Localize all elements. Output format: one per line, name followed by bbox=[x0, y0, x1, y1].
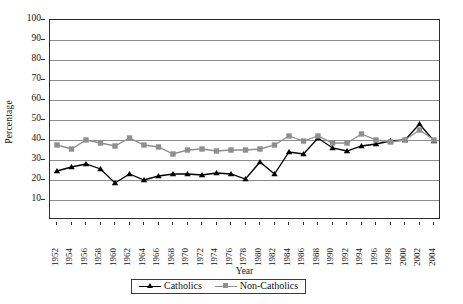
data-point-square bbox=[112, 143, 117, 148]
y-tick-label: 30 bbox=[32, 154, 42, 164]
y-tick-mark bbox=[41, 139, 45, 140]
y-tick-mark bbox=[41, 79, 45, 80]
data-point-square bbox=[359, 131, 364, 136]
x-tick-mark bbox=[230, 222, 231, 225]
x-tick-mark bbox=[346, 222, 347, 225]
y-tick-mark bbox=[41, 59, 45, 60]
x-tick-label: 1952 bbox=[51, 248, 60, 266]
x-tick-mark bbox=[259, 222, 260, 225]
x-tick-label: 1964 bbox=[138, 248, 147, 266]
y-tick-mark bbox=[41, 19, 45, 20]
data-point-square bbox=[417, 127, 422, 132]
data-point-square bbox=[156, 144, 161, 149]
y-tick-label: 90 bbox=[32, 34, 42, 44]
x-tick-mark bbox=[288, 222, 289, 225]
data-point-square bbox=[388, 139, 393, 144]
x-tick-mark bbox=[187, 222, 188, 225]
data-point-square bbox=[141, 142, 146, 147]
y-tick-label: 40 bbox=[32, 134, 42, 144]
y-tick-label: 80 bbox=[32, 54, 42, 64]
data-point-triangle bbox=[286, 149, 292, 154]
x-tick-mark bbox=[129, 222, 130, 225]
chart-figure: Percentage 102030405060708090100 1952195… bbox=[0, 0, 463, 304]
x-tick-label: 1956 bbox=[80, 248, 89, 266]
data-point-square bbox=[286, 133, 291, 138]
series-non-catholics bbox=[54, 127, 436, 156]
x-tick-label: 1994 bbox=[355, 248, 364, 266]
x-tick-mark bbox=[158, 222, 159, 225]
x-tick-label: 1972 bbox=[196, 248, 205, 266]
data-point-square bbox=[214, 148, 219, 153]
x-tick-mark bbox=[100, 222, 101, 225]
plot-area bbox=[49, 19, 440, 219]
data-point-triangle bbox=[257, 159, 263, 164]
y-tick-mark bbox=[41, 179, 45, 180]
x-tick-label: 1984 bbox=[283, 248, 292, 266]
legend-label-catholics: Catholics bbox=[164, 281, 202, 291]
data-point-square bbox=[199, 146, 204, 151]
x-axis-title: Year bbox=[49, 266, 440, 276]
legend-marker-square-icon bbox=[215, 282, 237, 291]
y-tick-label: 70 bbox=[32, 74, 42, 84]
data-point-square bbox=[315, 133, 320, 138]
y-tick-label: 50 bbox=[32, 114, 42, 124]
x-tick-mark bbox=[433, 222, 434, 225]
series-line bbox=[57, 124, 434, 183]
data-point-square bbox=[83, 137, 88, 142]
x-tick-mark bbox=[114, 222, 115, 225]
y-tick-label: 20 bbox=[32, 174, 42, 184]
x-tick-mark bbox=[172, 222, 173, 225]
x-tick-label: 1980 bbox=[254, 248, 263, 266]
x-tick-mark bbox=[216, 222, 217, 225]
data-point-square bbox=[228, 147, 233, 152]
data-point-square bbox=[344, 140, 349, 145]
x-tick-label: 1990 bbox=[326, 248, 335, 266]
x-tick-label: 1974 bbox=[210, 248, 219, 266]
data-point-square bbox=[243, 147, 248, 152]
data-point-square bbox=[54, 142, 59, 147]
x-tick-mark bbox=[71, 222, 72, 225]
x-tick-mark bbox=[143, 222, 144, 225]
x-axis-ticks: 1952195419561958196019621964196619681970… bbox=[49, 222, 440, 266]
y-tick-mark bbox=[41, 39, 45, 40]
x-tick-label: 2000 bbox=[399, 248, 408, 266]
x-tick-mark bbox=[317, 222, 318, 225]
x-tick-label: 1958 bbox=[94, 248, 103, 266]
data-point-square bbox=[373, 137, 378, 142]
y-tick-mark bbox=[41, 119, 45, 120]
x-tick-mark bbox=[332, 222, 333, 225]
data-point-square bbox=[170, 151, 175, 156]
y-tick-label: 60 bbox=[32, 94, 42, 104]
legend-label-non-catholics: Non-Catholics bbox=[240, 281, 298, 291]
x-tick-mark bbox=[375, 222, 376, 225]
legend-item-non-catholics: Non-Catholics bbox=[215, 281, 298, 291]
x-tick-label: 2002 bbox=[413, 248, 422, 266]
x-tick-label: 1998 bbox=[384, 248, 393, 266]
data-point-square bbox=[127, 135, 132, 140]
y-tick-mark bbox=[41, 199, 45, 200]
data-point-square bbox=[301, 138, 306, 143]
data-point-square bbox=[431, 137, 436, 142]
x-tick-mark bbox=[404, 222, 405, 225]
x-tick-mark bbox=[390, 222, 391, 225]
x-tick-label: 1962 bbox=[123, 248, 132, 266]
data-point-square bbox=[272, 142, 277, 147]
x-tick-mark bbox=[303, 222, 304, 225]
y-axis-ticks: 102030405060708090100 bbox=[0, 19, 45, 219]
data-point-square bbox=[69, 146, 74, 151]
x-tick-mark bbox=[85, 222, 86, 225]
x-tick-label: 1968 bbox=[167, 248, 176, 266]
y-tick-label: 100 bbox=[27, 14, 41, 24]
data-point-square bbox=[402, 137, 407, 142]
x-tick-label: 1976 bbox=[225, 248, 234, 266]
data-point-square bbox=[257, 146, 262, 151]
x-tick-label: 1970 bbox=[181, 248, 190, 266]
data-point-triangle bbox=[83, 161, 89, 166]
legend-marker-triangle-icon bbox=[139, 282, 161, 291]
x-tick-label: 1988 bbox=[312, 248, 321, 266]
x-tick-label: 1966 bbox=[152, 248, 161, 266]
x-tick-mark bbox=[245, 222, 246, 225]
x-tick-label: 1996 bbox=[370, 248, 379, 266]
x-tick-mark bbox=[56, 222, 57, 225]
x-tick-label: 1982 bbox=[268, 248, 277, 266]
